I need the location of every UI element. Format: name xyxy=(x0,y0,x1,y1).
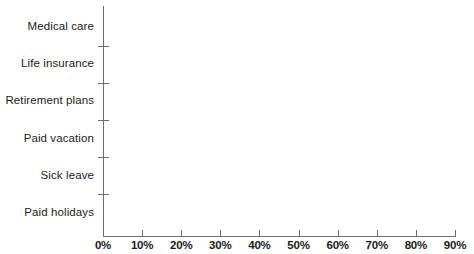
x-axis-tick xyxy=(455,230,456,237)
x-axis-tick xyxy=(142,230,143,237)
bar xyxy=(104,88,409,114)
x-axis-tick xyxy=(259,230,260,237)
bar xyxy=(104,14,448,40)
bar xyxy=(104,51,401,77)
x-axis-tick-label: 90% xyxy=(435,239,474,251)
x-axis-tick-label: 30% xyxy=(200,239,240,251)
category-label: Medical care xyxy=(0,20,94,32)
x-axis-tick xyxy=(181,230,182,237)
plot-area: Medical careLife insuranceRetirement pla… xyxy=(0,0,474,254)
y-axis-tick xyxy=(98,83,109,84)
category-label: Paid vacation xyxy=(0,132,94,144)
y-axis-tick xyxy=(98,46,109,47)
bar xyxy=(104,200,448,226)
y-axis-tick xyxy=(98,120,109,121)
bar xyxy=(104,126,440,152)
y-axis-tick xyxy=(98,194,109,195)
x-axis-line xyxy=(103,236,455,237)
x-axis-tick-label: 80% xyxy=(396,239,436,251)
x-axis-tick-label: 10% xyxy=(122,239,162,251)
x-axis-tick xyxy=(377,230,378,237)
x-axis-tick xyxy=(299,230,300,237)
x-axis-tick-label: 60% xyxy=(318,239,358,251)
category-label: Sick leave xyxy=(0,169,94,181)
bar xyxy=(104,163,409,189)
category-label: Paid holidays xyxy=(0,206,94,218)
x-axis-tick-label: 50% xyxy=(279,239,319,251)
y-axis-tick xyxy=(98,157,109,158)
category-label: Retirement plans xyxy=(0,94,94,106)
category-label: Life insurance xyxy=(0,57,94,69)
x-axis-tick-label: 0% xyxy=(83,239,123,251)
x-axis-tick-label: 40% xyxy=(239,239,279,251)
x-axis-tick xyxy=(103,230,104,237)
x-axis-tick-label: 70% xyxy=(357,239,397,251)
x-axis-tick-label: 20% xyxy=(161,239,201,251)
x-axis-tick xyxy=(220,230,221,237)
x-axis-tick xyxy=(416,230,417,237)
bar-chart: Medical careLife insuranceRetirement pla… xyxy=(0,0,474,254)
x-axis-tick xyxy=(338,230,339,237)
